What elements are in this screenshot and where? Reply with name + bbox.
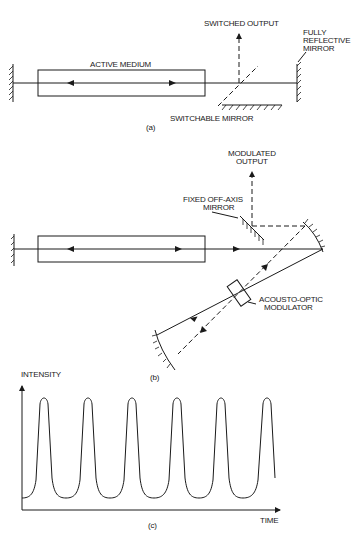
caption-c: (c) xyxy=(148,521,157,530)
y-axis-label: INTENSITY xyxy=(21,370,62,379)
left-mirror-b xyxy=(11,234,14,266)
diffracted-beam xyxy=(178,226,305,354)
panel-c-intensity-plot: INTENSITY TIME (c) xyxy=(21,370,280,530)
arrow-right-icon xyxy=(175,246,182,252)
fixed-mirror-label-2: MIRROR xyxy=(203,203,235,212)
panel-a: ACTIVE MEDIUM SWITCHED OUTPUT xyxy=(9,19,350,132)
arrow-right-icon xyxy=(169,80,176,86)
arrow-down-left-icon xyxy=(200,326,207,333)
caption-b: (b) xyxy=(150,373,160,382)
leader-line xyxy=(248,302,256,304)
switchable-mirror-base xyxy=(222,105,282,110)
switchable-mirror xyxy=(218,66,258,106)
arrow-left-icon xyxy=(67,80,74,86)
switched-output-label: SWITCHED OUTPUT xyxy=(204,19,279,28)
leader-line xyxy=(298,52,306,62)
arrow-right-icon xyxy=(233,246,240,252)
left-mirror-a xyxy=(9,64,13,102)
panel-b: FIXED OFF-AXIS MIRROR MODULATED OUTPUT A… xyxy=(11,149,325,382)
x-axis-label: TIME xyxy=(260,516,278,525)
lower-curved-mirror xyxy=(152,330,175,370)
active-medium-label-a: ACTIVE MEDIUM xyxy=(90,60,151,69)
leader-line xyxy=(212,212,238,218)
fixed-off-axis-mirror xyxy=(240,216,264,245)
aom-label-2: MODULATOR xyxy=(264,303,313,312)
fully-reflective-label-3: MIRROR xyxy=(303,44,335,53)
arrow-up-right-icon xyxy=(261,264,268,271)
modulated-output-label-2: OUTPUT xyxy=(236,157,268,166)
arrow-left-icon xyxy=(67,246,74,252)
switchable-mirror-label: SWITCHABLE MIRROR xyxy=(170,114,254,123)
caption-a: (a) xyxy=(146,123,156,132)
laser-cavity-figure: ACTIVE MEDIUM SWITCHED OUTPUT xyxy=(0,0,364,541)
intensity-pulse-train xyxy=(22,398,275,498)
right-curved-mirror xyxy=(303,219,325,252)
right-mirror-a xyxy=(297,62,301,102)
